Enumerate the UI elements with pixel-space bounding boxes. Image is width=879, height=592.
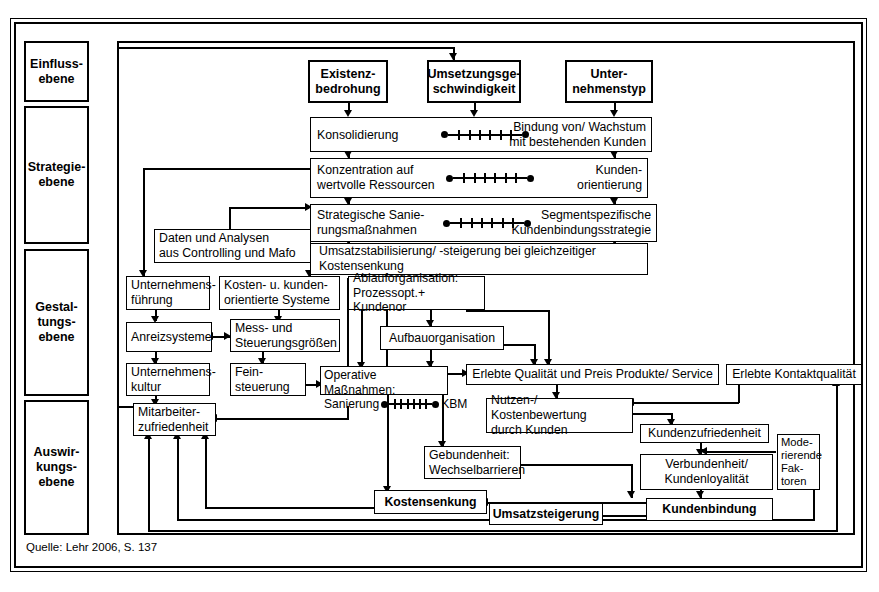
diagram-canvas: Einfluss- ebene Strategie- ebene Gestal-… (0, 0, 879, 592)
node-unternehmensfuehrung[interactable]: Unternehmens- führung (126, 276, 210, 310)
arrowhead-umsetzung-in (449, 53, 457, 60)
node-unternehmenstyp[interactable]: Unter- nehmenstyp (565, 60, 653, 103)
node-konsolidierung[interactable]: Konsolidierung Bindung von/ Wachstum mit… (310, 117, 652, 152)
node-moderierende-faktoren[interactable]: Mode- rierende Fak- toren (777, 434, 820, 490)
node-kosten-kundenorientierte-systeme[interactable]: Kosten- u. kunden- orientierte Systeme (219, 276, 340, 310)
node-konzentration[interactable]: Konzentration auf wertvolle Ressourcen K… (310, 158, 648, 198)
operative-scale (381, 398, 439, 410)
konsolidierung-right-label: Bindung von/ Wachstum mit bestehenden Ku… (509, 120, 646, 150)
level-box-auswirkung: Auswir- kungs- ebene (24, 400, 89, 535)
arrowhead-kundenbindung-2 (627, 491, 635, 498)
arrowhead-konzentration-l (344, 151, 352, 158)
node-feinsteuerung[interactable]: Fein- steuerung (230, 363, 306, 396)
node-daten-analysen[interactable]: Daten und Analysen aus Controlling und M… (154, 229, 311, 263)
operative-label-right: KBM (441, 397, 467, 412)
node-erlebte-kontaktqualitaet[interactable]: Erlebte Kontaktqualität (726, 364, 862, 385)
connector-kontakt-v (738, 384, 740, 403)
node-erlebte-qualitaet[interactable]: Erlebte Qualität und Preis Produkte/ Ser… (466, 364, 719, 385)
konzentration-right-label: Kunden- orientierung (577, 163, 642, 193)
konzentration-scale (446, 172, 534, 184)
node-kundenzufriedenheit[interactable]: Kundenzufriedenheit (640, 424, 769, 443)
connector-loop-left-top (143, 168, 310, 170)
node-kundenbindung[interactable]: Kundenbindung (646, 498, 773, 521)
node-operative-massnahmen[interactable]: Operative Maßnahmen: Sanierung KBM (320, 366, 448, 395)
node-unternehmenskultur[interactable]: Unternehmens- kultur (126, 363, 210, 396)
konzentration-left-label: Konzentration auf wertvolle Ressourcen (317, 163, 435, 193)
node-mitarbeiterzufriedenheit[interactable]: Mitarbeiter- zufriedenheit (133, 403, 216, 436)
node-nutzen-kostenbewertung[interactable]: Nutzen-/ Kostenbewertung durch Kunden (486, 398, 633, 433)
connector-bottom-riser-1 (148, 436, 150, 532)
operative-label-left: Sanierung (324, 397, 379, 412)
connector-loop-left-riser (143, 168, 145, 276)
arrowhead-konsolidierung-1 (344, 110, 352, 117)
connector-bottom-riser-3 (205, 436, 207, 508)
connector-frame-mitarbeiter (117, 406, 133, 408)
node-kostensenkung[interactable]: Kostensenkung (374, 490, 487, 514)
node-aufbauorganisation[interactable]: Aufbauorganisation (380, 326, 504, 350)
connector-bottom-riser-2 (177, 436, 179, 520)
connector-frame-mitarbeiter-v (117, 396, 119, 407)
arrowhead-konsolidierung-2 (470, 110, 478, 117)
node-ablauforganisation[interactable]: Ablauforganisation: Prozessopt.+ Kundeno… (348, 276, 485, 310)
connector-ablauf-erlebte-v (548, 310, 550, 364)
node-gebundenheit[interactable]: Gebundenheit: Wechselbarrieren (424, 446, 521, 479)
connector-bottom-riser-1r (836, 385, 838, 531)
connector-daten-run (229, 207, 309, 209)
connector-kontakt-h (633, 402, 739, 404)
konsolidierung-left-label: Konsolidierung (317, 127, 398, 142)
node-verbundenheit[interactable]: Verbundenheit/ Kundenloyalität (640, 454, 773, 490)
arrowhead-konzentration-r (610, 151, 618, 158)
connector-kz-mitarbeiter-h (216, 418, 349, 420)
level-box-einfluss: Einfluss- ebene (24, 41, 89, 102)
operative-line1: Operative Maßnahmen: (324, 368, 444, 397)
sanierung-right-label: Segmentspezifische Kundenbindungsstrateg… (512, 208, 651, 238)
level-box-strategie: Strategie- ebene (24, 106, 89, 244)
arrowhead-kundenbindung-1 (696, 491, 704, 498)
arrowhead-konsolidierung-3 (610, 110, 618, 117)
node-mess-steuerungsgroessen[interactable]: Mess- und Steuerungsgrößen (230, 319, 340, 352)
node-anreizsysteme[interactable]: Anreizsysteme (126, 322, 212, 352)
connector-frame-to-umsetzung (117, 47, 455, 49)
connector-bottom-run-3 (205, 507, 375, 509)
node-umsatzsteigerung[interactable]: Umsatzsteigerung (489, 503, 603, 525)
node-existenzbedrohung[interactable]: Existenz- bedrohung (308, 60, 388, 103)
sanierung-left-label: Strategische Sanie- rungsmaßnahmen (317, 208, 424, 238)
level-box-gestaltung: Gestal- tungs- ebene (24, 249, 89, 396)
connector-moderierende-h (706, 451, 776, 453)
source-note: Quelle: Lehr 2006, S. 137 (26, 541, 157, 553)
node-strategische-sanierung[interactable]: Strategische Sanie- rungsmaßnahmen Segme… (310, 204, 657, 242)
connector-bottom-run-1 (148, 530, 838, 532)
node-umsetzungsgeschwindigkeit[interactable]: Umsetzungsge- schwindigkeit (427, 60, 521, 103)
